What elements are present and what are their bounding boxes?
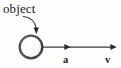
velocity-label: v [105, 55, 110, 66]
velocity-arrowhead [110, 44, 116, 50]
motion-vector-line [43, 44, 117, 50]
acceleration-arrowhead [64, 44, 70, 50]
physics-diagram-figure: object a v [0, 0, 121, 68]
object-label: object [3, 2, 35, 15]
object-ball [20, 36, 43, 59]
acceleration-label: a [63, 55, 68, 66]
object-callout-arrow [24, 17, 40, 35]
